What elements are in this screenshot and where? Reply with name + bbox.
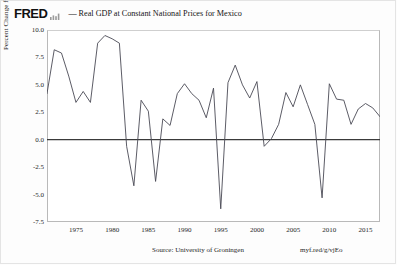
series-title: Real GDP at Constant National Prices for…	[79, 9, 242, 18]
y-tick-label: 5.0	[2, 81, 44, 89]
source-note: Source: University of Groningen	[152, 246, 244, 254]
y-tick-label: -2.5	[2, 163, 44, 171]
plot-area	[47, 30, 380, 222]
x-tick-label: 1985	[141, 226, 155, 234]
y-tick-label: 0.0	[2, 136, 44, 144]
x-tick-label: 1995	[214, 226, 228, 234]
y-tick-label: 10.0	[2, 26, 44, 34]
x-tick-label: 2000	[250, 226, 264, 234]
x-tick-label: 1990	[178, 226, 192, 234]
fred-chart-page: FRED —Real GDP at Constant National Pric…	[0, 0, 397, 265]
x-tick-label: 1975	[69, 226, 83, 234]
x-axis-ticks: 197519801985199019952000200520102015	[0, 226, 397, 238]
sparkline-icon	[50, 6, 61, 24]
x-tick-label: 1980	[105, 226, 119, 234]
x-tick-label: 2010	[322, 226, 336, 234]
series-legend: —Real GDP at Constant National Prices fo…	[68, 9, 241, 18]
y-tick-label: -5.0	[2, 191, 44, 199]
legend-dash: —	[68, 9, 76, 18]
chart-header: FRED —Real GDP at Constant National Pric…	[0, 4, 397, 22]
y-tick-label: 7.5	[2, 53, 44, 61]
chart-footer: Source: University of Groningen myf.red/…	[0, 246, 397, 260]
short-url-link[interactable]: myf.red/g/vjEo	[300, 246, 343, 254]
x-tick-label: 2015	[359, 226, 373, 234]
y-tick-label: 2.5	[2, 108, 44, 116]
gdp-growth-line	[47, 35, 380, 208]
x-tick-label: 2005	[286, 226, 300, 234]
chart-line-svg	[47, 30, 380, 222]
y-tick-label: -7.5	[2, 218, 44, 226]
